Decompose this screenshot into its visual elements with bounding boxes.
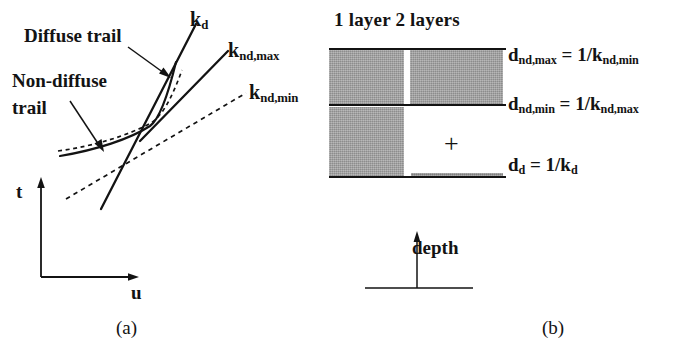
label-d-nd-min-lhs-subscript: nd,min — [519, 102, 555, 116]
label-kd-subscript: d — [201, 18, 208, 32]
axis-label-t: t — [16, 182, 22, 201]
label-knd-min: knd,min — [249, 82, 298, 102]
axis-label-depth: depth — [412, 238, 458, 257]
label-d-d: dd = 1/kd — [508, 155, 578, 174]
label-nondiffuse-trail-line1: Non-diffuse — [12, 71, 107, 90]
label-d-nd-max-lhs-subscript: nd,max — [519, 53, 557, 67]
axis-label-u: u — [131, 283, 142, 302]
caption-panel-b: (b) — [542, 318, 564, 337]
label-d-nd-max: dnd,max = 1/knd,min — [508, 45, 639, 64]
label-d-d-rhs-base: 1/k — [546, 154, 571, 175]
label-nondiffuse-trail-line2: trail — [12, 98, 47, 117]
label-kd: kd — [190, 9, 208, 29]
label-knd-min-subscript: nd,min — [260, 91, 298, 105]
label-d-d-rhs-subscript: d — [571, 163, 578, 177]
panel-a-axes — [37, 177, 139, 281]
label-knd-min-base: k — [249, 81, 260, 103]
line-knd-min — [66, 93, 246, 199]
label-d-nd-max-rhs-base: 1/k — [577, 44, 602, 65]
label-knd-max-subscript: nd,max — [239, 49, 279, 63]
label-d-d-equals: = — [525, 154, 545, 175]
caption-panel-a: (a) — [116, 318, 137, 337]
line-kd — [101, 24, 196, 209]
label-knd-max-base: k — [228, 39, 239, 61]
label-d-nd-min-lhs-base: d — [508, 93, 519, 114]
label-d-d-lhs-subscript: d — [519, 163, 526, 177]
label-knd-max: knd,max — [228, 40, 279, 60]
panel-a-slope-lines — [66, 24, 246, 209]
label-d-nd-min: dnd,min = 1/knd,max — [508, 94, 639, 113]
label-kd-base: k — [190, 8, 201, 30]
label-d-d-lhs-base: d — [508, 154, 519, 175]
label-d-nd-max-rhs-subscript: nd,min — [603, 53, 639, 67]
label-d-nd-max-lhs-base: d — [508, 44, 519, 65]
plus-sign-symbol: + — [444, 131, 459, 157]
label-d-nd-min-rhs-subscript: nd,max — [601, 102, 639, 116]
panel-b-level-rules — [329, 49, 506, 177]
figure-container: Diffuse trail Non-diffuse trail kd knd,m… — [0, 0, 691, 360]
label-d-nd-min-equals: = — [555, 93, 575, 114]
label-d-nd-min-rhs-base: 1/k — [575, 93, 600, 114]
panel-b-column-header: 1 layer 2 layers — [334, 10, 460, 29]
label-diffuse-trail: Diffuse trail — [24, 26, 122, 45]
label-d-nd-max-equals: = — [557, 44, 577, 65]
